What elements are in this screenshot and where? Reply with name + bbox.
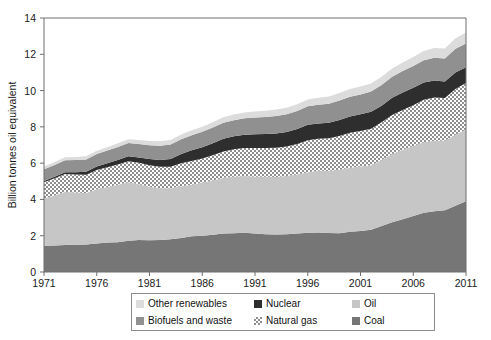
y-tick-label: 8 xyxy=(30,121,36,133)
x-tick-label: 1981 xyxy=(138,277,162,289)
legend-swatch xyxy=(254,300,262,308)
x-tick-label: 1971 xyxy=(32,277,56,289)
chart-legend: Other renewablesNuclearOilBiofuels and w… xyxy=(131,293,435,331)
x-tick-label: 1976 xyxy=(85,277,109,289)
x-tick-label: 1991 xyxy=(243,277,267,289)
legend-item-natural-gas[interactable]: Natural gas xyxy=(254,316,352,326)
legend-item-biofuels-and-waste[interactable]: Biofuels and waste xyxy=(136,316,254,326)
y-tick-label: 2 xyxy=(30,230,36,242)
legend-swatch xyxy=(352,300,360,308)
y-tick-label: 14 xyxy=(24,12,36,24)
legend-label: Nuclear xyxy=(266,299,300,309)
x-tick-label: 1986 xyxy=(191,277,215,289)
y-tick-label: 6 xyxy=(30,157,36,169)
legend-label: Coal xyxy=(364,316,385,326)
legend-item-nuclear[interactable]: Nuclear xyxy=(254,299,352,309)
stacked-area-chart: 02468101214 1971197619811986199119962001… xyxy=(0,0,491,340)
chart-root: 02468101214 1971197619811986199119962001… xyxy=(0,0,491,340)
y-axis-label: Billion tonnes oil equivalent xyxy=(6,82,18,209)
legend-swatch xyxy=(254,317,262,325)
y-tick-label: 10 xyxy=(24,85,36,97)
y-tick-label: 4 xyxy=(30,193,36,205)
legend-swatch xyxy=(136,317,144,325)
x-tick-label: 2011 xyxy=(455,277,478,289)
legend-label: Oil xyxy=(364,299,376,309)
x-tick-label: 2001 xyxy=(349,277,373,289)
legend-item-other-renewables[interactable]: Other renewables xyxy=(136,299,254,309)
legend-item-coal[interactable]: Coal xyxy=(352,316,432,326)
legend-label: Other renewables xyxy=(148,299,227,309)
legend-swatch xyxy=(136,300,144,308)
legend-swatch xyxy=(352,317,360,325)
y-tick-label: 12 xyxy=(24,48,36,60)
x-tick-label: 1996 xyxy=(296,277,320,289)
legend-label: Biofuels and waste xyxy=(148,316,232,326)
x-tick-label: 2006 xyxy=(402,277,426,289)
legend-item-oil[interactable]: Oil xyxy=(352,299,432,309)
legend-label: Natural gas xyxy=(266,316,317,326)
